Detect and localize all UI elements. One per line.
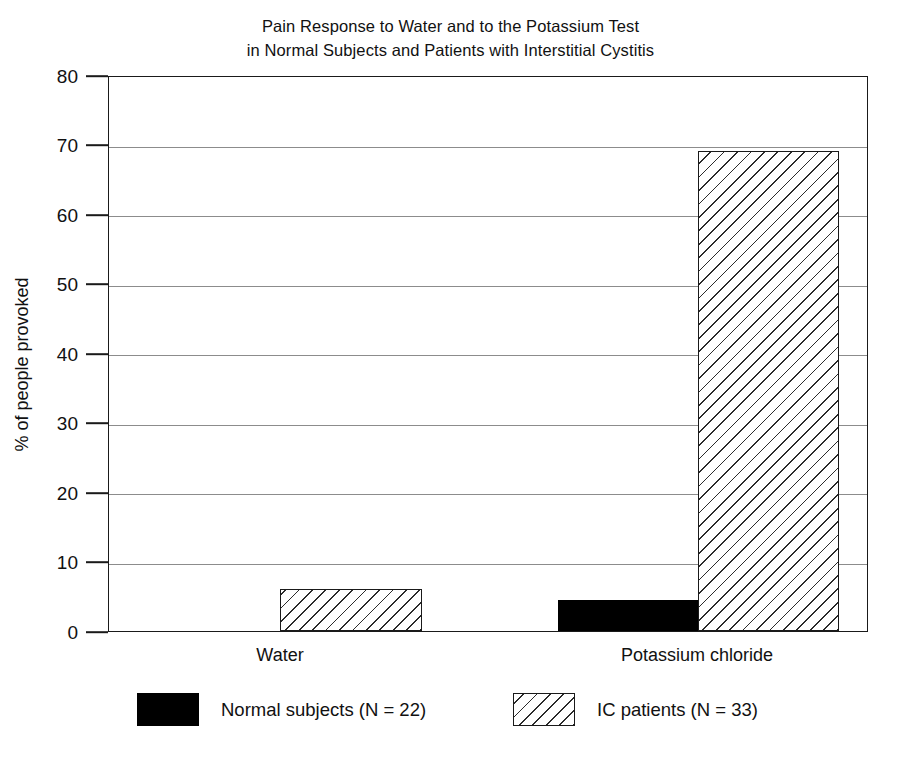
y-tick-mark-50 xyxy=(86,283,108,285)
bar-water-ic-patients xyxy=(280,589,422,631)
y-tick-label-70: 70 xyxy=(57,136,78,155)
y-tick-mark-40 xyxy=(86,353,108,355)
y-tick-label-80: 80 xyxy=(57,67,78,86)
chart-title-line-2: in Normal Subjects and Patients with Int… xyxy=(0,38,901,62)
y-axis-title: % of people provoked xyxy=(12,155,33,575)
legend-label-normal-subjects: Normal subjects (N = 22) xyxy=(221,699,426,721)
y-tick-mark-20 xyxy=(86,492,108,494)
plot-area xyxy=(108,76,868,632)
y-tick-mark-30 xyxy=(86,422,108,424)
legend-swatch-solid-black-icon xyxy=(137,693,199,726)
x-category-label-potassium-chloride: Potassium chloride xyxy=(621,645,773,666)
y-tick-label-20: 20 xyxy=(57,484,78,503)
y-tick-mark-80 xyxy=(86,75,108,77)
y-tick-label-10: 10 xyxy=(57,553,78,572)
legend-item-ic-patients: IC patients (N = 33) xyxy=(513,693,758,726)
y-tick-mark-0 xyxy=(86,631,108,633)
y-tick-mark-60 xyxy=(86,214,108,216)
x-category-label-water: Water xyxy=(256,645,303,666)
legend-swatch-diagonal-hatch-icon xyxy=(513,693,575,726)
chart-legend: Normal subjects (N = 22) IC patients (N … xyxy=(0,693,901,739)
y-tick-mark-70 xyxy=(86,144,108,146)
chart-title: Pain Response to Water and to the Potass… xyxy=(0,14,901,62)
y-tick-label-40: 40 xyxy=(57,345,78,364)
bar-kcl-normal-subjects xyxy=(558,600,698,631)
y-tick-label-0: 0 xyxy=(67,623,78,642)
gridline-70 xyxy=(109,147,867,148)
y-tick-label-50: 50 xyxy=(57,275,78,294)
chart-title-line-1: Pain Response to Water and to the Potass… xyxy=(0,14,901,38)
y-axis: % of people provoked 80 70 60 50 40 30 2… xyxy=(0,0,108,763)
y-tick-label-30: 30 xyxy=(57,414,78,433)
y-tick-mark-10 xyxy=(86,561,108,563)
legend-item-normal-subjects: Normal subjects (N = 22) xyxy=(137,693,426,726)
legend-label-ic-patients: IC patients (N = 33) xyxy=(597,699,758,721)
bar-kcl-ic-patients xyxy=(698,151,839,631)
y-tick-label-60: 60 xyxy=(57,206,78,225)
